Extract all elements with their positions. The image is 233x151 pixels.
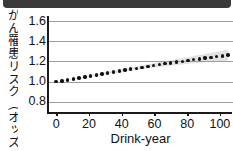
data-point xyxy=(89,74,92,77)
confidence-band xyxy=(48,16,233,112)
x-tick-mark xyxy=(89,112,90,116)
data-point xyxy=(226,53,229,56)
x-tick-mark xyxy=(122,112,123,116)
gridline xyxy=(48,61,233,62)
gridline xyxy=(48,82,233,83)
x-tick-label: 80 xyxy=(169,117,205,131)
data-point xyxy=(198,57,201,60)
gridline xyxy=(48,21,233,22)
data-point xyxy=(181,60,184,63)
x-tick-mark xyxy=(56,112,57,116)
x-tick-mark xyxy=(154,112,155,116)
x-tick-mark xyxy=(187,112,188,116)
data-point xyxy=(203,56,206,59)
data-point xyxy=(186,59,189,62)
y-tick-label: 1.0 xyxy=(18,75,46,87)
x-tick-mark xyxy=(220,112,221,116)
y-axis-line xyxy=(47,16,49,112)
x-tick-label: 20 xyxy=(71,117,107,131)
y-axis-label: がん罹患リスク（オッズ比） xyxy=(1,9,18,149)
chart-figure: がん罹患リスク（オッズ比） 1.61.41.21.00.8 0204060801… xyxy=(0,0,233,151)
plot-area: 020406080100 xyxy=(48,16,233,112)
data-point xyxy=(100,72,103,75)
x-tick-label: 40 xyxy=(104,117,140,131)
y-tick-label: 1.6 xyxy=(18,15,46,27)
data-point xyxy=(209,56,212,59)
gridline xyxy=(48,41,233,42)
x-tick-label: 0 xyxy=(38,117,74,131)
y-tick-label: 1.4 xyxy=(18,35,46,47)
data-point xyxy=(175,60,178,63)
y-tick-label: 0.8 xyxy=(18,95,46,107)
data-point xyxy=(135,67,138,70)
data-point xyxy=(221,54,224,57)
data-point xyxy=(123,68,126,71)
data-point xyxy=(60,79,63,82)
data-point xyxy=(72,77,75,80)
data-point xyxy=(83,75,86,78)
y-tick-label: 1.2 xyxy=(18,55,46,67)
data-point xyxy=(77,76,80,79)
x-tick-label: 100 xyxy=(202,117,233,131)
x-axis-line xyxy=(47,112,232,114)
data-point xyxy=(95,73,98,76)
x-tick-label: 60 xyxy=(136,117,172,131)
x-axis-label: Drink-year xyxy=(48,131,233,146)
gridline xyxy=(48,102,233,103)
data-point xyxy=(140,66,143,69)
data-point xyxy=(146,65,149,68)
data-point xyxy=(118,69,121,72)
data-point xyxy=(112,70,115,73)
